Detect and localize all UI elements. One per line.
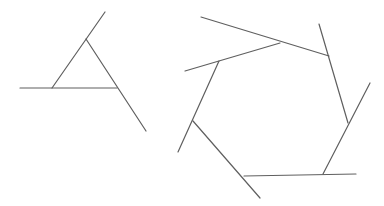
extended-triangle-segment-1 <box>52 12 105 88</box>
extended-hexagon-segment-4 <box>244 174 356 176</box>
extended-hexagon-segment-1 <box>201 17 329 56</box>
extended-hexagon-segment-3 <box>323 83 370 174</box>
extended-triangle <box>20 12 146 131</box>
diagram-svg <box>0 0 384 206</box>
extended-triangle-segment-2 <box>86 39 146 131</box>
extended-hexagon <box>178 17 370 198</box>
extended-hexagon-segment-5 <box>193 121 260 198</box>
extended-hexagon-segment-6 <box>178 61 219 152</box>
extended-hexagon-segment-7 <box>185 43 280 71</box>
diagram-canvas <box>0 0 384 206</box>
extended-hexagon-segment-2 <box>319 24 348 123</box>
